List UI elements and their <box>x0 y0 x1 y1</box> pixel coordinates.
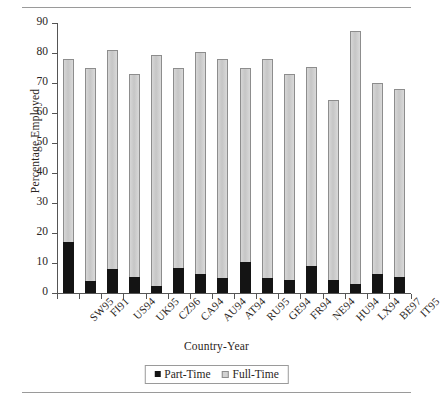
bar-segment-full-time-RU95 <box>240 68 251 262</box>
bar-segment-part-time-RU95 <box>240 262 251 294</box>
bar-segment-part-time-BE97 <box>372 274 383 294</box>
bar-IT95 <box>394 89 405 293</box>
y-tick-label-0: 0 <box>42 285 48 297</box>
bar-CA94 <box>173 68 184 293</box>
x-axis-label-GE94: GE94 <box>286 295 313 322</box>
bar-segment-part-time-FR94 <box>284 280 295 294</box>
x-axis-title: Country-Year <box>0 340 433 352</box>
bar-segment-full-time-IT95 <box>394 89 405 277</box>
x-axis-label-UK95: UK95 <box>154 295 182 323</box>
bar-RU95 <box>240 68 251 293</box>
y-tick-label-20: 20 <box>37 225 49 237</box>
y-tick-label-10: 10 <box>37 255 49 267</box>
x-axis-label-US94: US94 <box>131 295 158 322</box>
bar-NE94 <box>306 67 317 294</box>
bar-segment-part-time-FI91 <box>85 281 96 293</box>
y-tick-label-70: 70 <box>37 75 49 87</box>
black-square-icon <box>154 371 160 377</box>
y-tick-label-60: 60 <box>37 105 49 117</box>
x-axis-label-LX94: LX94 <box>374 295 401 322</box>
bar-GE94 <box>262 59 273 293</box>
bar-segment-full-time-AT94 <box>217 59 228 278</box>
bar-segment-full-time-NE94 <box>306 67 317 267</box>
bar-segment-part-time-HU94 <box>328 280 339 294</box>
bar-segment-full-time-FI91 <box>85 68 96 281</box>
x-axis-label-NE94: NE94 <box>330 295 357 322</box>
legend-item-part-time: Part-Time <box>154 368 210 380</box>
bar-segment-full-time-GE94 <box>262 59 273 278</box>
bar-SW95 <box>63 59 74 293</box>
y-tick-label-30: 30 <box>37 195 49 207</box>
x-axis-label-AT94: AT94 <box>241 295 267 321</box>
bar-segment-part-time-LX94 <box>350 284 361 293</box>
x-axis-label-RU95: RU95 <box>264 295 292 323</box>
bar-US94 <box>107 50 118 293</box>
bar-AU94 <box>195 52 206 294</box>
bar-series-group <box>57 23 411 293</box>
x-axis-label-IT95: IT95 <box>417 295 441 319</box>
legend-item-full-time: Full-Time <box>222 368 279 380</box>
page-rule-bottom <box>22 392 411 393</box>
bar-BE97 <box>372 83 383 293</box>
y-tick-label-80: 80 <box>37 45 49 57</box>
page-rule-top <box>22 7 411 8</box>
bar-segment-part-time-CA94 <box>173 268 184 294</box>
y-tick-label-90: 90 <box>37 15 49 27</box>
bar-segment-part-time-CZ96 <box>151 286 162 294</box>
bar-segment-part-time-GE94 <box>262 278 273 293</box>
x-axis-label-HU94: HU94 <box>353 295 381 323</box>
bar-segment-part-time-US94 <box>107 269 118 293</box>
bar-segment-part-time-NE94 <box>306 266 317 293</box>
bar-segment-part-time-SW95 <box>63 242 74 293</box>
bar-segment-full-time-SW95 <box>63 59 74 242</box>
bar-AT94 <box>217 59 228 293</box>
y-tick-label-50: 50 <box>37 135 49 147</box>
bar-CZ96 <box>151 55 162 294</box>
bar-segment-full-time-LX94 <box>350 31 361 285</box>
bar-segment-full-time-UK95 <box>129 74 140 277</box>
chart-legend: Part-Time Full-Time <box>144 365 288 384</box>
figure-stacked-bar-chart: Percentage Employed 0102030405060708090 … <box>0 10 433 390</box>
x-axis-label-FR94: FR94 <box>308 295 334 321</box>
bar-segment-full-time-US94 <box>107 50 118 269</box>
bar-FI91 <box>85 68 96 293</box>
y-tick-label-40: 40 <box>37 165 49 177</box>
bar-segment-part-time-IT95 <box>394 277 405 294</box>
gray-square-icon <box>222 371 229 378</box>
bar-segment-full-time-FR94 <box>284 74 295 280</box>
bar-HU94 <box>328 100 339 294</box>
x-axis-label-CA94: CA94 <box>198 295 226 323</box>
plot-area: 0102030405060708090 <box>57 23 411 293</box>
bar-segment-full-time-BE97 <box>372 83 383 274</box>
bar-segment-full-time-HU94 <box>328 100 339 280</box>
bar-segment-part-time-AT94 <box>217 278 228 293</box>
bar-segment-full-time-AU94 <box>195 52 206 274</box>
bar-segment-full-time-CZ96 <box>151 55 162 286</box>
bar-UK95 <box>129 74 140 293</box>
bar-FR94 <box>284 74 295 293</box>
legend-label-full-time: Full-Time <box>233 368 279 380</box>
bar-LX94 <box>350 31 361 294</box>
legend-label-part-time: Part-Time <box>164 368 210 380</box>
bar-segment-part-time-AU94 <box>195 274 206 294</box>
bar-segment-full-time-CA94 <box>173 68 184 268</box>
x-axis-label-CZ96: CZ96 <box>175 295 202 322</box>
bar-segment-part-time-UK95 <box>129 277 140 294</box>
